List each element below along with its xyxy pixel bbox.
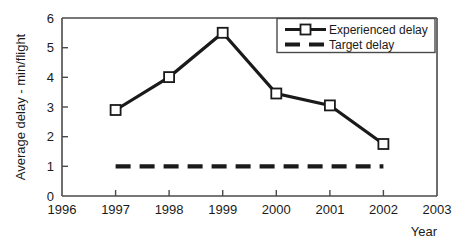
legend-label-experienced-delay: Experienced delay: [329, 23, 428, 37]
x-tick-label: 1997: [101, 202, 130, 217]
data-point-marker: [271, 89, 281, 99]
x-tick-label: 1996: [48, 202, 77, 217]
y-tick-label: 2: [47, 129, 54, 144]
data-point-marker: [164, 72, 174, 82]
legend-label-target-delay: Target delay: [329, 38, 394, 52]
y-tick-label: 4: [47, 70, 54, 85]
legend-marker-square-icon: [301, 25, 311, 35]
legend: Experienced delay Target delay: [277, 19, 435, 53]
data-point-marker: [218, 28, 228, 38]
x-tick-label: 1998: [155, 202, 184, 217]
legend-item-experienced-delay[interactable]: Experienced delay: [285, 23, 428, 37]
y-tick-label: 3: [47, 100, 54, 115]
data-point-marker: [378, 139, 388, 149]
data-point-marker: [111, 105, 121, 115]
y-tick-labels: 6 5 4 3 2 1 0: [47, 11, 54, 204]
x-tick-labels: 1996 1997 1998 1999 2000 2001 2002 2003: [48, 202, 452, 217]
x-axis-title: Year: [411, 224, 438, 239]
x-tick-label: 1999: [208, 202, 237, 217]
y-tick-label: 5: [47, 40, 54, 55]
x-tick-label: 2002: [369, 202, 398, 217]
x-tick-label: 2003: [423, 202, 452, 217]
chart-figure: 6 5 4 3 2 1 0 1996 1997 1998 1999 2000 2…: [0, 0, 456, 248]
y-tick-label: 6: [47, 11, 54, 26]
x-tick-label: 2001: [315, 202, 344, 217]
y-axis-title: Average delay - min/flight: [13, 33, 28, 180]
y-tick-label: 1: [47, 159, 54, 174]
data-point-marker: [325, 100, 335, 110]
x-tick-label: 2000: [262, 202, 291, 217]
line-chart: 6 5 4 3 2 1 0 1996 1997 1998 1999 2000 2…: [0, 0, 456, 248]
